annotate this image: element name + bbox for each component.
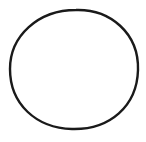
circle-shape xyxy=(10,10,138,129)
drawing-canvas xyxy=(0,0,146,142)
